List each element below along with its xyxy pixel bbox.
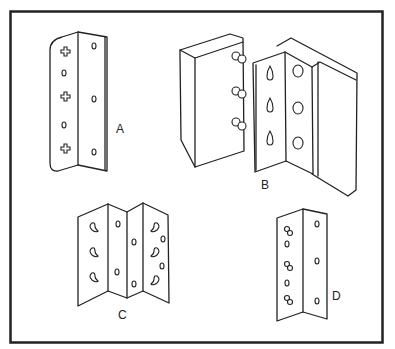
- bracket-c: C: [78, 203, 169, 322]
- bracket-a: A: [50, 32, 124, 171]
- cross-hole-icon: [61, 47, 70, 153]
- label-d: D: [332, 289, 341, 303]
- bracket-diagram: A B: [0, 0, 395, 349]
- bracket-d: D: [277, 209, 341, 321]
- bracket-b: B: [180, 34, 357, 196]
- figure-eight-slot-icon: [285, 227, 293, 305]
- label-b: B: [261, 178, 269, 192]
- label-c: C: [118, 308, 127, 322]
- label-a: A: [116, 122, 124, 136]
